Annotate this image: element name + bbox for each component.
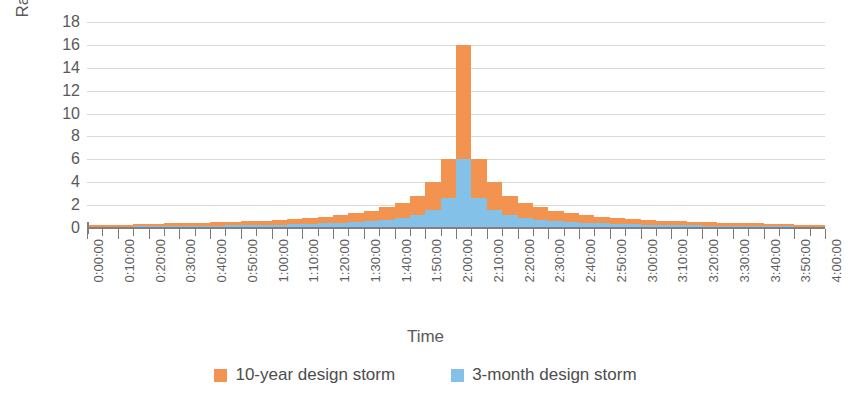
x-tick-label: 3:20:00 xyxy=(707,239,720,315)
x-tick-label: 1:00:00 xyxy=(277,239,290,315)
x-tick-label: 1:30:00 xyxy=(369,239,382,315)
x-tick-mark xyxy=(395,229,396,239)
legend-label: 3-month design storm xyxy=(472,365,636,385)
x-tick-label: 2:50:00 xyxy=(615,239,628,315)
x-tick-mark-minor xyxy=(318,229,319,236)
x-tick-mark-minor xyxy=(195,229,196,236)
x-tick-label: 2:20:00 xyxy=(523,239,536,315)
y-tick-label: 2 xyxy=(54,197,80,213)
y-tick-label: 4 xyxy=(54,174,80,190)
bar-column xyxy=(225,22,240,228)
bar-column xyxy=(87,22,102,228)
bar-column xyxy=(318,22,333,228)
x-tick-mark xyxy=(425,229,426,239)
plot-area xyxy=(87,22,825,228)
y-axis-title: Rainfall (mm) xyxy=(12,0,34,65)
bar-column xyxy=(118,22,133,228)
bar-3-month-design-storm xyxy=(456,159,471,228)
bar-3-month-design-storm xyxy=(441,198,456,228)
x-tick-mark-minor xyxy=(441,229,442,236)
bar-column xyxy=(333,22,348,228)
x-tick-label: 3:50:00 xyxy=(799,239,812,315)
bar-3-month-design-storm xyxy=(487,210,502,228)
bar-column xyxy=(671,22,686,228)
x-tick-label: 0:20:00 xyxy=(154,239,167,315)
y-tick-label: 6 xyxy=(54,151,80,167)
bar-column xyxy=(302,22,317,228)
x-tick-mark-minor xyxy=(779,229,780,236)
legend-swatch-icon xyxy=(451,369,464,382)
x-tick-mark xyxy=(456,229,457,239)
x-tick-mark xyxy=(272,229,273,239)
x-tick-label: 3:30:00 xyxy=(738,239,751,315)
legend-item[interactable]: 10-year design storm xyxy=(214,365,395,385)
x-tick-mark xyxy=(87,229,88,239)
x-tick-mark xyxy=(579,229,580,239)
bar-column xyxy=(441,22,456,228)
x-tick-mark-minor xyxy=(102,229,103,236)
x-tick-mark-minor xyxy=(502,229,503,236)
y-axis-title-container: Rainfall (mm) xyxy=(2,15,28,230)
bar-column xyxy=(564,22,579,228)
x-tick-mark-minor xyxy=(164,229,165,236)
bar-column xyxy=(594,22,609,228)
bar-column xyxy=(810,22,825,228)
legend-item[interactable]: 3-month design storm xyxy=(451,365,636,385)
x-tick-mark xyxy=(702,229,703,239)
bar-column xyxy=(348,22,363,228)
x-tick-mark-minor xyxy=(687,229,688,236)
x-tick-label: 3:10:00 xyxy=(676,239,689,315)
y-tick-label: 12 xyxy=(54,83,80,99)
x-tick-label: 1:10:00 xyxy=(307,239,320,315)
x-tick-mark-minor xyxy=(379,229,380,236)
x-tick-mark xyxy=(548,229,549,239)
bar-column xyxy=(502,22,517,228)
bar-column xyxy=(625,22,640,228)
bar-column xyxy=(287,22,302,228)
bar-column xyxy=(518,22,533,228)
x-tick-label: 0:10:00 xyxy=(123,239,136,315)
x-tick-mark-minor xyxy=(656,229,657,236)
bar-column xyxy=(364,22,379,228)
x-tick-mark xyxy=(179,229,180,239)
bar-column xyxy=(241,22,256,228)
x-tick-label: 2:00:00 xyxy=(461,239,474,315)
x-tick-mark xyxy=(518,229,519,239)
bar-column xyxy=(410,22,425,228)
bar-column xyxy=(133,22,148,228)
x-tick-mark-minor xyxy=(564,229,565,236)
x-tick-mark xyxy=(671,229,672,239)
bar-column xyxy=(164,22,179,228)
x-tick-label: 1:20:00 xyxy=(338,239,351,315)
chart-legend: 10-year design storm3-month design storm xyxy=(0,365,851,385)
x-tick-mark xyxy=(764,229,765,239)
x-tick-label: 4:00:00 xyxy=(830,239,843,315)
x-tick-label: 0:30:00 xyxy=(184,239,197,315)
y-tick-label: 14 xyxy=(54,60,80,76)
x-tick-mark xyxy=(610,229,611,239)
bar-column xyxy=(379,22,394,228)
bar-column xyxy=(779,22,794,228)
x-tick-mark xyxy=(241,229,242,239)
bar-series-container xyxy=(87,22,825,228)
bar-column xyxy=(717,22,732,228)
bar-column xyxy=(764,22,779,228)
bar-column xyxy=(533,22,548,228)
bar-column xyxy=(210,22,225,228)
x-tick-mark-minor xyxy=(225,229,226,236)
bar-column xyxy=(425,22,440,228)
x-tick-mark-minor xyxy=(533,229,534,236)
y-tick-label: 0 xyxy=(54,220,80,236)
x-tick-mark-minor xyxy=(594,229,595,236)
bar-column xyxy=(102,22,117,228)
bar-3-month-design-storm xyxy=(471,198,486,228)
bar-column xyxy=(179,22,194,228)
bar-column xyxy=(272,22,287,228)
x-tick-label: 3:40:00 xyxy=(769,239,782,315)
bar-column xyxy=(656,22,671,228)
y-tick-label: 16 xyxy=(54,37,80,53)
bar-column xyxy=(395,22,410,228)
x-tick-mark-minor xyxy=(810,229,811,236)
bar-column xyxy=(487,22,502,228)
rainfall-hyetograph-chart: Rainfall (mm) 024681012141618 0:00:000:1… xyxy=(0,0,851,395)
